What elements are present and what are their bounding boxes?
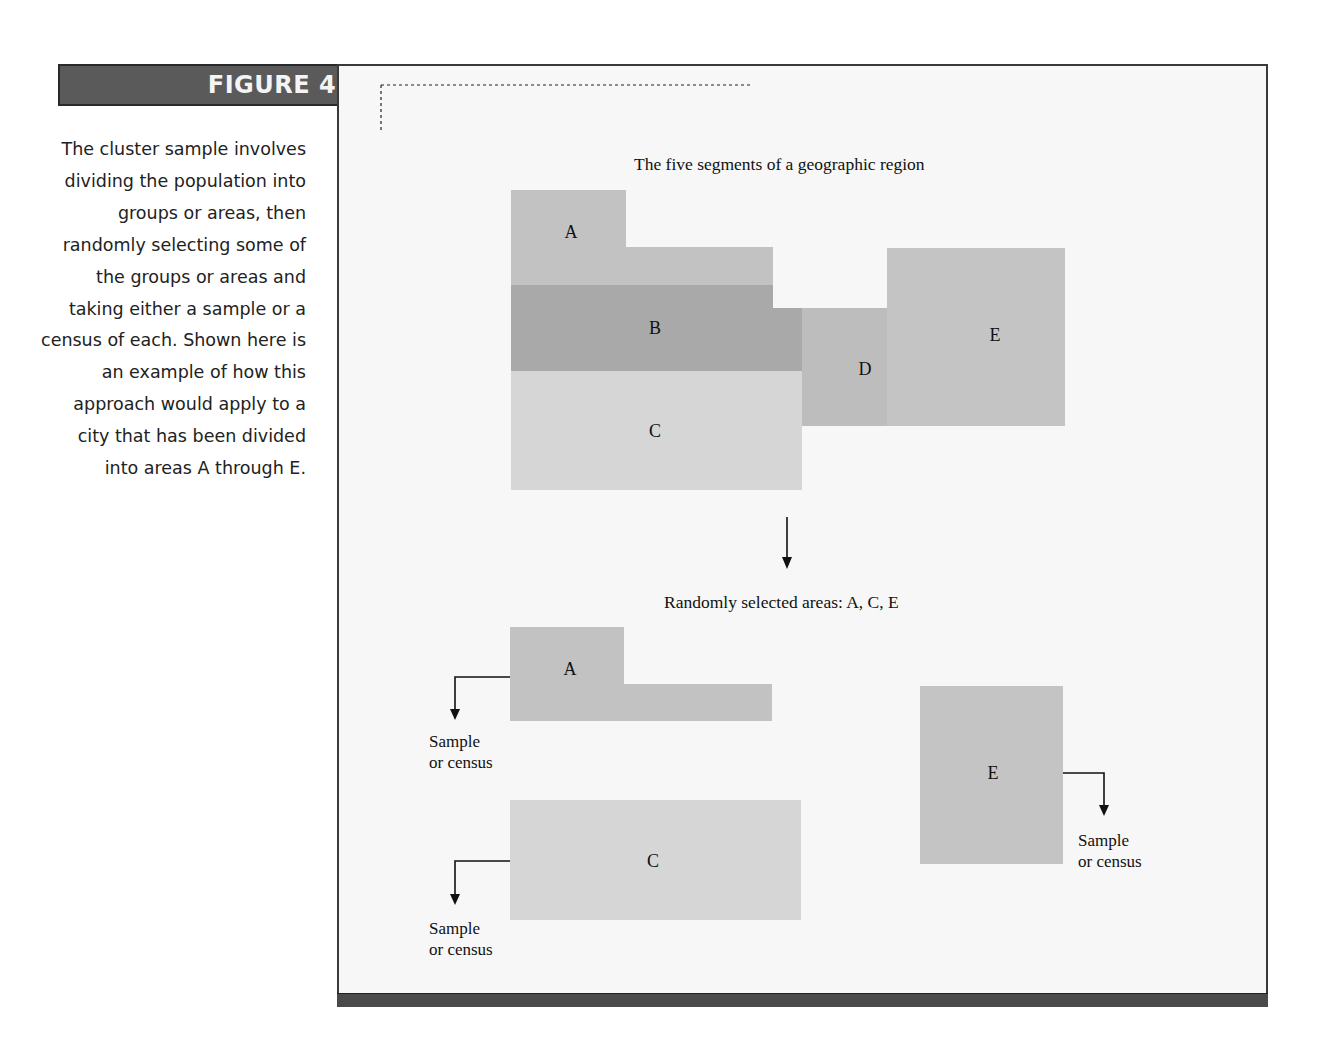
- down-arrow-icon: [782, 517, 792, 569]
- arrow-e-head-icon: [1099, 805, 1109, 816]
- region-d: [802, 308, 887, 426]
- region-c-label: C: [649, 421, 661, 441]
- selected-area-c: C: [450, 800, 801, 920]
- selected-a-label: A: [564, 659, 577, 679]
- selection-title: Randomly selected areas: A, C, E: [664, 592, 899, 613]
- region-map: A B C D E: [511, 190, 1065, 490]
- note-e-line1: Sample: [1078, 830, 1142, 851]
- dashed-connector: [381, 85, 752, 133]
- region-a: [511, 190, 773, 285]
- note-c: Sample or census: [429, 918, 493, 960]
- top-diagram-title: The five segments of a geographic region: [634, 154, 925, 175]
- arrow-a: [455, 677, 510, 712]
- selected-c-label: C: [647, 851, 659, 871]
- selected-e-label: E: [988, 763, 999, 783]
- arrow-c-head-icon: [450, 894, 460, 905]
- note-a-line2: or census: [429, 752, 493, 773]
- note-c-line1: Sample: [429, 918, 493, 939]
- region-e-label: E: [990, 325, 1001, 345]
- region-a-label: A: [565, 222, 578, 242]
- note-a-line1: Sample: [429, 731, 493, 752]
- arrow-c: [455, 861, 510, 897]
- region-b-label: B: [649, 318, 661, 338]
- note-c-line2: or census: [429, 939, 493, 960]
- region-d-label: D: [859, 359, 872, 379]
- arrow-e: [1063, 773, 1104, 808]
- arrow-a-head-icon: [450, 709, 460, 720]
- region-e: [887, 248, 1065, 426]
- note-a: Sample or census: [429, 731, 493, 773]
- selected-area-a: A: [450, 627, 772, 721]
- note-e-line2: or census: [1078, 851, 1142, 872]
- note-e: Sample or census: [1078, 830, 1142, 872]
